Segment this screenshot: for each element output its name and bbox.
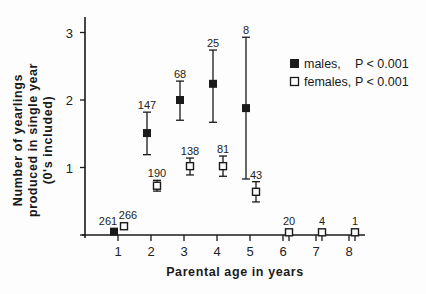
open-square-marker-icon — [187, 163, 194, 170]
x-tick-label: 6 — [279, 244, 286, 259]
data-point: 68 — [174, 68, 186, 120]
y-axis-title: Number of yearlingsproduced in single ye… — [11, 63, 55, 217]
legend: males, P < 0.001 females, P < 0.001 — [290, 57, 409, 89]
sample-size-label: 147 — [138, 99, 156, 111]
legend-males-marker-icon — [290, 59, 299, 68]
sample-size-label: 4 — [319, 215, 325, 227]
y-axis-title-line: (0's included) — [41, 96, 55, 184]
filled-square-marker-icon — [110, 228, 118, 236]
x-tick-label: 7 — [312, 244, 319, 259]
filled-square-marker-icon — [242, 104, 250, 112]
data-point: 261 — [99, 215, 118, 236]
data-point: 25 — [207, 37, 219, 122]
data-point: 147 — [138, 99, 156, 155]
sample-size-label: 1 — [352, 215, 358, 227]
data-point: 138 — [181, 145, 199, 175]
open-square-marker-icon — [121, 223, 128, 230]
y-tick-label: 1 — [66, 161, 73, 176]
x-tick-label: 5 — [246, 244, 253, 259]
filled-square-marker-icon — [176, 96, 184, 104]
filled-square-marker-icon — [209, 80, 217, 88]
series-males: 26114768258 — [99, 24, 250, 235]
sample-size-label: 138 — [181, 145, 199, 157]
data-point: 266 — [119, 209, 137, 230]
legend-females-marker-icon — [291, 78, 299, 86]
y-tick-label: 3 — [66, 26, 73, 41]
data-point: 1 — [352, 215, 359, 241]
legend-females-label: females, — [304, 75, 351, 89]
x-tick-label: 1 — [114, 244, 121, 259]
open-square-marker-icon — [352, 229, 359, 236]
sample-size-label: 43 — [250, 169, 262, 181]
data-point: 20 — [283, 215, 295, 241]
y-tick-label: 2 — [66, 93, 73, 108]
x-tick-label: 4 — [213, 244, 220, 259]
x-tick-label: 3 — [180, 244, 187, 259]
series-females: 26619013881432041 — [119, 143, 359, 241]
legend-females-p-value: P < 0.001 — [355, 75, 409, 89]
open-square-marker-icon — [319, 229, 326, 236]
filled-square-marker-icon — [143, 129, 151, 137]
sample-size-label: 20 — [283, 215, 295, 227]
open-square-marker-icon — [253, 188, 260, 195]
open-square-marker-icon — [220, 163, 227, 170]
x-axis-title: Parental age in years — [166, 265, 304, 279]
legend-males-p-value: P < 0.001 — [355, 57, 409, 71]
sample-size-label: 68 — [174, 68, 186, 80]
sample-size-label: 266 — [119, 209, 137, 221]
sample-size-label: 8 — [243, 24, 249, 36]
y-axis-title-line: Number of yearlings — [11, 74, 25, 206]
data-point: 43 — [250, 169, 262, 202]
sample-size-label: 25 — [207, 37, 219, 49]
legend-males-label: males, — [304, 57, 341, 71]
data-point: 8 — [242, 24, 250, 179]
data-point: 190 — [148, 167, 166, 191]
data-point: 4 — [319, 215, 326, 241]
sample-size-label: 261 — [99, 215, 117, 227]
x-tick-label: 2 — [147, 244, 154, 259]
chart: 12312345678 Number of yearlingsproduced … — [0, 0, 426, 294]
x-tick-label: 8 — [345, 244, 352, 259]
data-point: 81 — [217, 143, 229, 176]
open-square-marker-icon — [286, 229, 293, 236]
y-axis-title-line: produced in single year — [26, 63, 40, 217]
open-square-marker-icon — [154, 182, 161, 189]
sample-size-label: 81 — [217, 143, 229, 155]
sample-size-label: 190 — [148, 167, 166, 179]
